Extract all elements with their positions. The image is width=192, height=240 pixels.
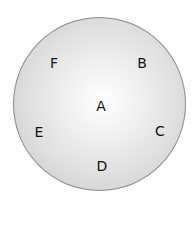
- label-e: E: [35, 125, 44, 139]
- label-f: F: [50, 56, 58, 70]
- label-d: D: [97, 159, 108, 173]
- label-c: C: [155, 124, 165, 138]
- label-b: B: [137, 56, 147, 70]
- label-a: A: [96, 99, 106, 113]
